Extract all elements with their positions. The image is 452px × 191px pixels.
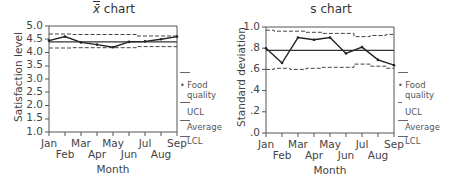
legend-lcl: LCL xyxy=(187,136,202,146)
s-food-quality-line xyxy=(266,38,394,66)
legend-food-quality-2: quality xyxy=(405,90,434,100)
s-x-axis-label: Month xyxy=(300,164,360,176)
s-legend: • Food quality UCL Average LCL xyxy=(398,70,452,150)
legend-ucl: UCL xyxy=(187,107,204,117)
xbar-legend: • Food quality UCL Average LCL xyxy=(180,70,226,150)
x-tick: Aug xyxy=(363,149,393,161)
legend-food-quality-2: quality xyxy=(187,90,216,100)
x-tick: Feb xyxy=(267,149,297,161)
x-tick: Aug xyxy=(146,148,176,160)
xbar-x-axis-label: Month xyxy=(83,163,143,175)
x-tick: Apr xyxy=(299,149,329,161)
legend-ucl: UCL xyxy=(405,107,422,117)
x-tick: Apr xyxy=(82,148,112,160)
legend-lcl: LCL xyxy=(405,136,420,146)
xbar-ucl-line xyxy=(49,34,177,36)
x-tick: Jun xyxy=(114,148,144,160)
xbar-chart-panel: x̄ chart Satisfaction level 5.0 4.5 4.0 … xyxy=(0,0,226,191)
x-tick: Feb xyxy=(50,148,80,160)
s-lcl-line xyxy=(266,64,394,69)
s-ucl-line xyxy=(266,30,394,36)
x-tick: Jun xyxy=(331,149,361,161)
s-chart-panel: s chart Standard deviation 1.0 .8 .6 .4 … xyxy=(226,0,452,191)
